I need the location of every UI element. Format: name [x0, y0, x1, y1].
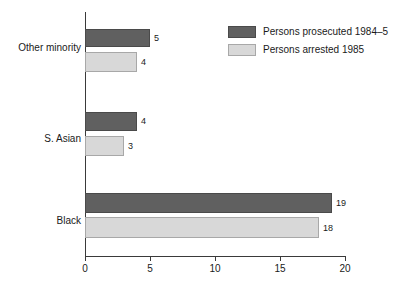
legend-item-arrested: Persons arrested 1985 [228, 42, 388, 58]
bar-value-black-prosecuted: 19 [336, 198, 346, 209]
bar-other-minority-arrested [85, 52, 137, 72]
legend-label-prosecuted: Persons prosecuted 1984–5 [263, 26, 388, 38]
bar-black-arrested [85, 217, 319, 238]
bar-s-asian-arrested [85, 136, 124, 156]
category-label-other-minority: Other minority [18, 42, 81, 54]
x-axis-tick-label-10: 10 [200, 263, 230, 275]
legend-item-prosecuted: Persons prosecuted 1984–5 [228, 24, 388, 40]
bar-value-other-minority-prosecuted: 5 [154, 33, 159, 44]
x-axis-tick-5 [150, 256, 151, 261]
x-axis-tick-10 [215, 256, 216, 261]
category-label-black: Black [57, 215, 81, 227]
bar-black-prosecuted [85, 193, 332, 213]
x-axis-tick-label-15: 15 [265, 263, 295, 275]
legend-swatch-arrested [228, 44, 256, 56]
x-axis-tick-label-0: 0 [70, 263, 100, 275]
x-axis-tick-label-20: 20 [330, 263, 360, 275]
bar-value-black-arrested: 18 [323, 223, 333, 234]
bar-chart: 0 5 10 15 20 Other minority S. Asian Bla… [0, 0, 393, 288]
bar-value-other-minority-arrested: 4 [141, 57, 146, 68]
bar-value-s-asian-prosecuted: 4 [141, 116, 146, 127]
x-axis-tick-20 [345, 256, 346, 261]
bar-s-asian-prosecuted [85, 112, 137, 131]
legend-swatch-prosecuted [228, 26, 256, 38]
chart-legend: Persons prosecuted 1984–5 Persons arrest… [228, 24, 388, 60]
category-label-s-asian: S. Asian [44, 133, 81, 145]
x-axis-tick-15 [280, 256, 281, 261]
bar-other-minority-prosecuted [85, 29, 150, 47]
x-axis-tick-label-5: 5 [135, 263, 165, 275]
legend-label-arrested: Persons arrested 1985 [263, 44, 364, 56]
x-axis-tick-0 [85, 256, 86, 261]
bar-value-s-asian-arrested: 3 [128, 141, 133, 152]
